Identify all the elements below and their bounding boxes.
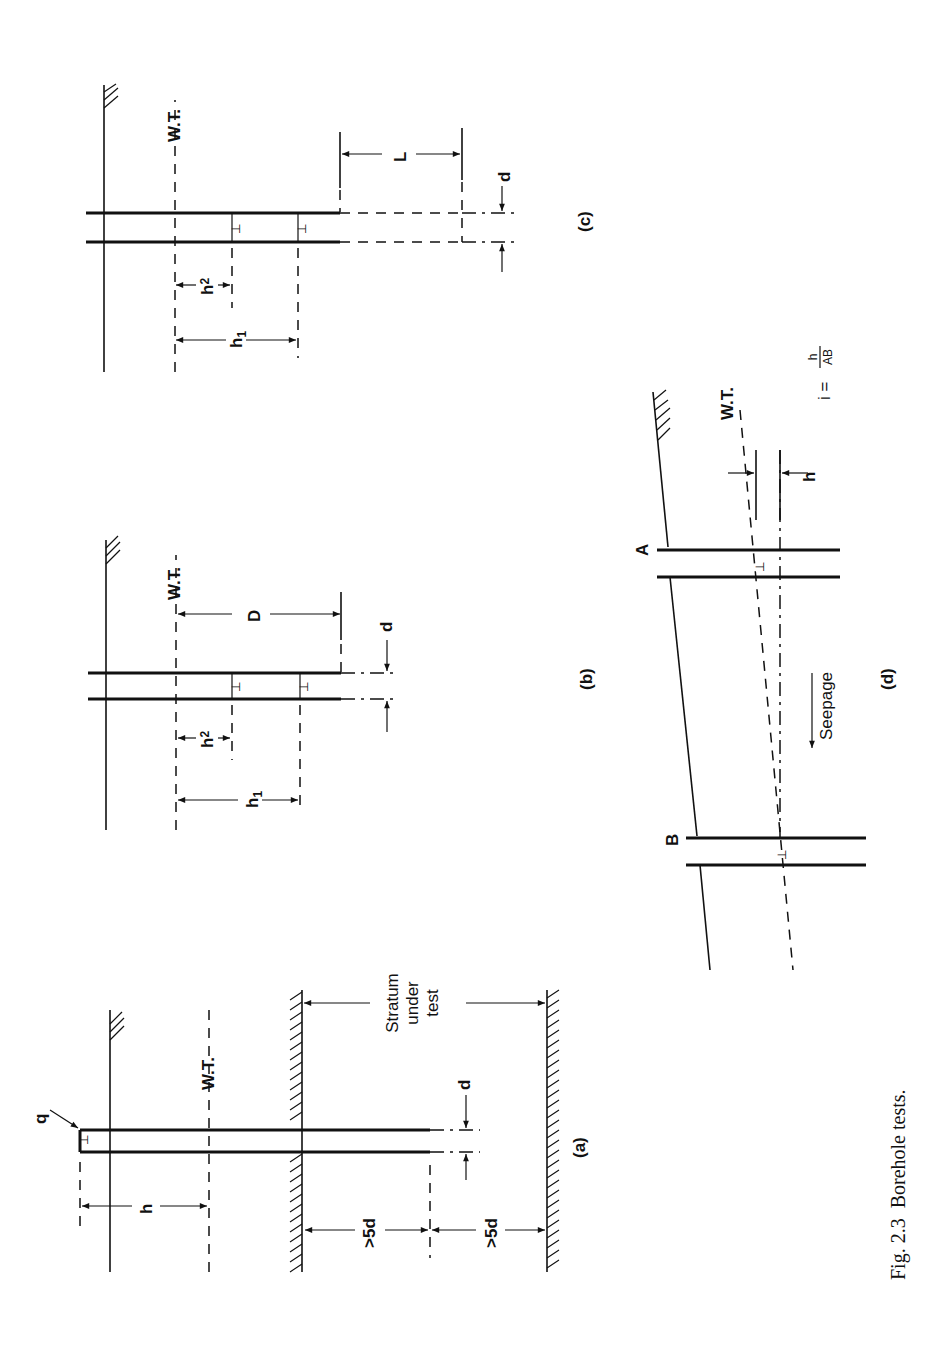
water-table-label: W.T.: [199, 1057, 218, 1090]
formula-numerator: h: [806, 354, 820, 361]
water-level-symbol-icon: ⊥: [753, 562, 767, 572]
water-level-symbol-icon: ⊥: [229, 224, 243, 234]
diameter-d-label: d: [455, 1080, 474, 1090]
formula-lhs: i =: [815, 382, 834, 401]
ground-surface-line-middle: [670, 577, 697, 836]
point-b-label: B: [663, 834, 682, 846]
water-level-symbol-icon: ⊥: [297, 682, 311, 692]
panel-d-label: (d): [878, 668, 897, 690]
water-level-symbol-icon: ⊥: [77, 1135, 91, 1145]
ground-surface-line-upper: [653, 392, 668, 547]
water-table-line: [740, 410, 793, 970]
h2-label: h2: [198, 278, 217, 295]
panel-b: W.T. ⊥ ⊥ D d h2 h1 (b): [88, 536, 596, 830]
formula-denominator: AB: [821, 349, 835, 365]
caption-text: Fig. 2.3Borehole tests.: [887, 1089, 910, 1280]
stratum-label-line2: under: [403, 981, 422, 1025]
h2-label: h2: [198, 731, 217, 748]
panel-c: W.T. ⊥ ⊥ L d h2 h1 (c): [86, 84, 594, 372]
figure-caption: Fig. 2.3Borehole tests.: [887, 1089, 910, 1280]
water-level-symbol-icon: ⊥: [295, 224, 309, 234]
flow-rate-label: q: [31, 1114, 50, 1124]
head-h-label: h: [137, 1204, 156, 1214]
head-h-label: h: [800, 472, 819, 482]
diameter-d-label: d: [495, 172, 514, 182]
stratum-bottom-hatch: [547, 990, 559, 1268]
ground-hatch-icon: [104, 84, 118, 108]
panel-a-label: (a): [570, 1137, 589, 1158]
panel-b-label: (b): [577, 668, 596, 690]
seepage-label: Seepage: [817, 672, 836, 740]
h1-label: h1: [243, 791, 265, 808]
water-table-label: W.T.: [718, 387, 737, 420]
ground-surface-line-lower: [700, 865, 710, 970]
diameter-d-label: d: [377, 622, 396, 632]
borehole-tests-figure: W.T. ⊥ q h Stratum under test d: [0, 0, 939, 1364]
length-L-label: L: [391, 152, 410, 162]
stratum-top-hatch: [290, 992, 302, 1272]
flow-arrow-icon: [50, 1110, 78, 1128]
depth-5d-label-1: >5d: [360, 1218, 379, 1248]
panel-c-label: (c): [575, 211, 594, 232]
stratum-label-line1: Stratum: [383, 973, 402, 1033]
ground-hatch-icon: [110, 1012, 124, 1040]
water-table-label: W.T.: [165, 567, 184, 600]
depth-D-label: D: [245, 610, 264, 622]
h1-label: h1: [227, 331, 249, 348]
point-a-label: A: [633, 544, 652, 556]
panel-a: W.T. ⊥ q h Stratum under test d: [31, 973, 589, 1272]
depth-5d-label-2: >5d: [482, 1218, 501, 1248]
water-level-symbol-icon: ⊥: [229, 682, 243, 692]
stratum-label-line3: test: [423, 989, 442, 1017]
gradient-formula: i = h AB: [806, 346, 835, 400]
ground-hatch-icon: [106, 536, 120, 564]
panel-d: A ⊥ B ⊥ W.T. h Seepage i = h AB (d): [633, 346, 897, 970]
water-table-label: W.T.: [165, 109, 184, 142]
